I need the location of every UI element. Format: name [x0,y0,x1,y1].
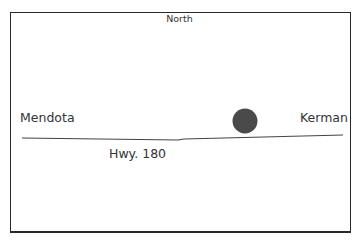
place-label-kerman: Kerman [300,110,348,125]
compass-north-label: North [0,13,359,24]
place-label-mendota: Mendota [20,110,75,125]
highway-label: Hwy. 180 [109,146,166,161]
highway-line [22,135,343,140]
location-marker-icon [233,109,258,134]
